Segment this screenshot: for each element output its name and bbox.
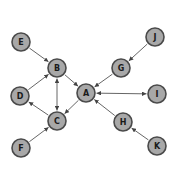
- node-label: B: [54, 64, 60, 73]
- node-label: E: [18, 38, 23, 47]
- node-b: B: [48, 59, 66, 77]
- graph-diagram: ABCDEFGHIJK: [0, 0, 179, 170]
- node-k: K: [148, 137, 166, 155]
- node-a: A: [77, 84, 95, 102]
- edge-k-h: [132, 128, 149, 140]
- edge-c-d: [29, 102, 49, 115]
- edge-j-g: [129, 44, 147, 61]
- edge-f-c: [29, 127, 48, 141]
- node-label: H: [120, 118, 127, 127]
- node-f: F: [12, 139, 30, 157]
- node-d: D: [11, 87, 29, 105]
- node-i: I: [148, 85, 166, 103]
- node-h: H: [114, 113, 132, 131]
- edge-h-a: [94, 99, 114, 115]
- node-label: C: [54, 117, 60, 126]
- node-c: C: [48, 112, 66, 130]
- node-label: D: [17, 92, 24, 101]
- edge-b-a: [65, 75, 78, 86]
- node-j: J: [146, 28, 164, 46]
- node-label: I: [156, 90, 159, 99]
- node-label: A: [83, 89, 90, 98]
- edge-a-i: [96, 93, 146, 94]
- edge-g-a: [95, 74, 113, 87]
- edge-a-c: [65, 100, 79, 113]
- node-g: G: [112, 59, 130, 77]
- node-label: K: [154, 142, 161, 151]
- node-label: G: [118, 64, 125, 73]
- node-label: F: [18, 144, 23, 153]
- edge-e-b: [30, 48, 49, 62]
- node-label: J: [153, 33, 157, 42]
- node-e: E: [12, 33, 30, 51]
- edge-d-b: [28, 74, 48, 89]
